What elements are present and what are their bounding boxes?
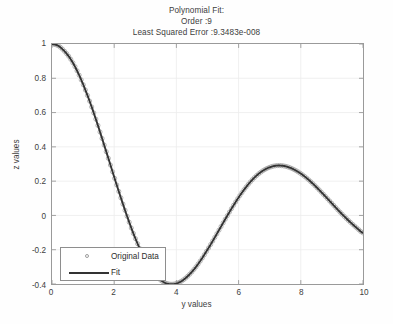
ytick-label: 0.8 — [35, 74, 46, 83]
figure-canvas: Polynomial Fit: Order :9 Least Squared E… — [0, 0, 393, 324]
ytick-label: -0.2 — [32, 246, 46, 255]
x-axis-label: y values — [0, 300, 393, 309]
title-line-2: Order :9 — [0, 16, 393, 27]
legend-label: Original Data — [111, 252, 159, 261]
legend-sample-line — [67, 264, 109, 281]
xtick-label: 2 — [102, 288, 126, 297]
xtick-label: 4 — [164, 288, 188, 297]
legend-item-fit[interactable]: Fit — [61, 264, 167, 281]
xtick-label: 0 — [39, 288, 63, 297]
chart-title: Polynomial Fit: Order :9 Least Squared E… — [0, 5, 393, 39]
legend-sample-marker — [67, 248, 109, 265]
ytick-label: 0 — [41, 212, 46, 221]
ytick-label: 0.2 — [35, 177, 46, 186]
xtick-label: 8 — [289, 288, 313, 297]
ytick-label: 0.4 — [35, 143, 46, 152]
title-line-3: Least Squared Error :9.3483e-008 — [0, 27, 393, 38]
xtick-label: 10 — [352, 288, 376, 297]
solid-line-icon — [69, 272, 109, 274]
circle-marker-icon — [85, 254, 89, 258]
ytick-label: 0.6 — [35, 108, 46, 117]
legend-label: Fit — [111, 268, 120, 277]
y-axis-label: z values — [12, 125, 21, 185]
legend-item-original-data[interactable]: Original Data — [61, 248, 167, 265]
legend: Original Data Fit — [60, 247, 166, 281]
xtick-label: 6 — [227, 288, 251, 297]
ytick-label: 1 — [41, 39, 46, 48]
title-line-1: Polynomial Fit: — [0, 5, 393, 16]
